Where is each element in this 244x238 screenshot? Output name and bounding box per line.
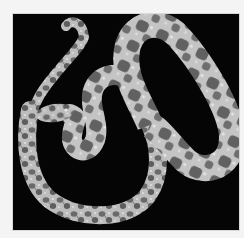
- snake-illustration: [13, 14, 239, 230]
- snake-neck: [70, 75, 130, 150]
- snake-photo: [13, 14, 239, 230]
- image-frame: [0, 0, 244, 238]
- snake-right-loop: [126, 25, 232, 168]
- snake-eye: [64, 108, 67, 111]
